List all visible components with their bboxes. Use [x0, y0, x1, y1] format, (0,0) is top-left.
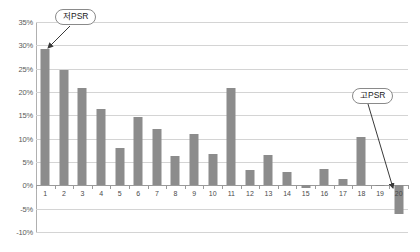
x-axis-tick — [352, 185, 353, 189]
x-axis-tick — [129, 185, 130, 189]
x-axis-tick — [241, 185, 242, 189]
y-axis-tick-label: -10% — [1, 228, 33, 237]
x-axis-tick — [371, 185, 372, 189]
x-axis-tick — [148, 185, 149, 189]
x-axis-tick-label: 4 — [99, 190, 103, 197]
callout-low-psr: 저PSR — [55, 9, 96, 25]
x-axis-tick-label: 17 — [339, 190, 347, 197]
x-axis-tick — [166, 185, 167, 189]
x-axis-tick-label: 18 — [358, 190, 366, 197]
x-axis-tick-label: 6 — [136, 190, 140, 197]
x-axis-tick-label: 10 — [209, 190, 217, 197]
y-axis-tick-label: 10% — [1, 134, 33, 143]
y-axis-tick-label: 15% — [1, 111, 33, 120]
x-axis-tick-label: 19 — [376, 190, 384, 197]
x-axis-tick-label: 13 — [265, 190, 273, 197]
x-axis-tick-label: 14 — [283, 190, 291, 197]
x-axis-tick-label: 15 — [302, 190, 310, 197]
x-axis-tick — [296, 185, 297, 189]
y-axis-labels: 35%30%25%20%15%10%5%0%-5%-10% — [0, 22, 33, 232]
x-axis-tick-label: 9 — [192, 190, 196, 197]
x-axis-tick — [110, 185, 111, 189]
y-axis-tick-label: 35% — [1, 18, 33, 27]
x-axis-tick — [55, 185, 56, 189]
x-axis-tick-label: 7 — [155, 190, 159, 197]
x-axis-tick-label: 3 — [81, 190, 85, 197]
x-axis-tick — [73, 185, 74, 189]
x-axis-tick-label: 12 — [246, 190, 254, 197]
x-axis-tick — [36, 185, 37, 189]
y-axis-tick-label: 0% — [1, 181, 33, 190]
y-axis-tick-label: 25% — [1, 64, 33, 73]
x-axis-tick-label: 1 — [43, 190, 47, 197]
x-axis-tick — [408, 185, 409, 189]
callout-high-psr: 고PSR — [352, 88, 393, 104]
x-axis-tick-label: 16 — [320, 190, 328, 197]
y-axis-tick-label: 20% — [1, 88, 33, 97]
x-axis-tick-label: 8 — [174, 190, 178, 197]
x-axis-tick — [278, 185, 279, 189]
y-axis-tick-label: -5% — [1, 204, 33, 213]
x-axis-tick — [334, 185, 335, 189]
x-axis-tick-label: 5 — [118, 190, 122, 197]
x-axis-tick — [222, 185, 223, 189]
x-axis: 1234567891011121314151617181920 — [36, 0, 408, 252]
x-axis-tick — [92, 185, 93, 189]
x-axis-tick — [185, 185, 186, 189]
x-axis-tick — [203, 185, 204, 189]
x-axis-tick-label: 11 — [228, 190, 235, 197]
x-axis-tick — [389, 185, 390, 189]
y-axis-tick-label: 30% — [1, 41, 33, 50]
y-axis-tick-label: 5% — [1, 158, 33, 167]
x-axis-tick-label: 2 — [62, 190, 66, 197]
x-axis-tick — [315, 185, 316, 189]
x-axis-tick-label: 20 — [395, 190, 403, 197]
chart-container: 35%30%25%20%15%10%5%0%-5%-10% 1234567891… — [0, 0, 420, 252]
x-axis-tick — [259, 185, 260, 189]
